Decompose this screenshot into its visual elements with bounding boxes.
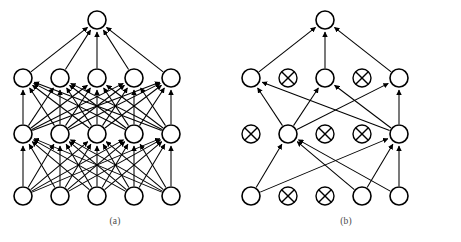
edge bbox=[71, 83, 162, 129]
edge-group-b bbox=[256, 27, 399, 192]
neuron-node bbox=[353, 187, 371, 205]
pruned-node bbox=[353, 69, 371, 87]
figure-root: (a) (b) bbox=[0, 0, 461, 242]
neuron-node bbox=[390, 125, 408, 143]
edge bbox=[258, 88, 283, 126]
pruned-node bbox=[316, 125, 334, 143]
edge bbox=[34, 83, 125, 129]
neuron-node bbox=[51, 187, 69, 205]
edge bbox=[297, 142, 354, 190]
neuron-node bbox=[14, 69, 32, 87]
neuron-node bbox=[88, 69, 106, 87]
edge bbox=[298, 140, 390, 191]
neuron-node bbox=[51, 125, 69, 143]
edge bbox=[256, 144, 282, 187]
edge bbox=[65, 30, 90, 69]
neuron-node bbox=[242, 187, 260, 205]
neuron-node bbox=[162, 125, 180, 143]
neuron-node bbox=[14, 125, 32, 143]
panel-a-caption: (a) bbox=[0, 216, 230, 226]
neuron-node bbox=[242, 69, 260, 87]
pruned-node bbox=[279, 69, 297, 87]
edge bbox=[29, 144, 55, 187]
neuron-node bbox=[162, 187, 180, 205]
panel-a: (a) bbox=[0, 0, 230, 242]
neuron-node bbox=[390, 187, 408, 205]
neuron-node bbox=[88, 187, 106, 205]
neuron-node bbox=[316, 11, 334, 29]
neuron-node bbox=[125, 69, 143, 87]
neuron-node bbox=[125, 187, 143, 205]
neuron-node bbox=[88, 11, 106, 29]
edge bbox=[334, 27, 391, 71]
neuron-node bbox=[279, 125, 297, 143]
edge-group-a bbox=[23, 27, 171, 192]
panel-b-caption: (b) bbox=[231, 216, 461, 226]
pruned-node bbox=[242, 125, 260, 143]
edge bbox=[103, 30, 128, 69]
pruned-node bbox=[316, 187, 334, 205]
neuron-node bbox=[390, 69, 408, 87]
neuron-node bbox=[125, 125, 143, 143]
edge bbox=[106, 27, 163, 71]
neuron-node bbox=[162, 69, 180, 87]
edge bbox=[33, 140, 125, 191]
edge bbox=[297, 83, 388, 129]
edge bbox=[70, 140, 162, 191]
pruned-node bbox=[353, 125, 371, 143]
neuron-node bbox=[316, 69, 334, 87]
edge bbox=[31, 27, 88, 71]
panel-b: (b) bbox=[231, 0, 461, 242]
neuron-node bbox=[51, 69, 69, 87]
edge bbox=[259, 27, 316, 71]
network-diagram-b bbox=[231, 0, 461, 215]
neuron-node bbox=[88, 125, 106, 143]
network-diagram-a bbox=[0, 0, 230, 215]
pruned-node bbox=[279, 187, 297, 205]
neuron-node bbox=[14, 187, 32, 205]
